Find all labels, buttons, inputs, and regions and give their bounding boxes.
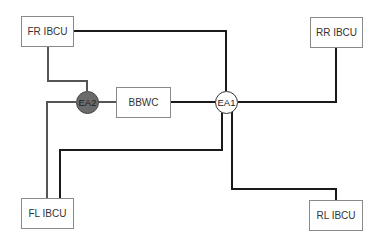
- ea1-node: EA1: [215, 91, 238, 114]
- line-fr-ea2: [48, 46, 87, 91]
- bbwc-box: BBWC: [116, 87, 171, 118]
- fr-ibcu-box: FR IBCU: [21, 16, 74, 47]
- line-ea1-fl: [60, 112, 222, 198]
- rl-ibcu-box: RL IBCU: [309, 200, 363, 231]
- line-fr-ea1: [73, 31, 226, 91]
- line-ea1-rr: [238, 47, 336, 102]
- ea2-node: EA2: [76, 91, 99, 114]
- rr-ibcu-box: RR IBCU: [310, 17, 363, 48]
- fl-ibcu-box: FL IBCU: [21, 198, 74, 229]
- line-ea1-rl: [232, 112, 336, 200]
